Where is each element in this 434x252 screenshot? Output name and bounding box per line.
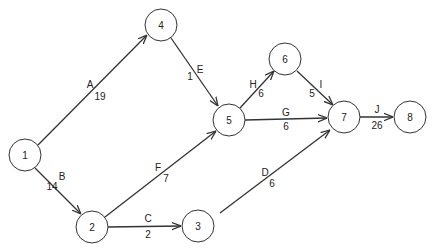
edge-D: D 6 [220, 130, 330, 213]
node-2-label: 2 [89, 222, 95, 233]
edge-C: C 2 [108, 213, 181, 240]
edge-B: B 14 [35, 168, 81, 214]
edge-D-activity: D [261, 167, 268, 178]
node-7: 7 [328, 101, 360, 133]
node-5: 5 [213, 104, 245, 136]
network-diagram: A 19 B 14 C 2 D 6 E 1 F 7 G 6 H 6 I 5 [0, 0, 434, 252]
node-6-label: 6 [282, 54, 288, 65]
edge-B-duration: 14 [46, 181, 58, 192]
node-1: 1 [9, 139, 41, 171]
edge-J-duration: 26 [371, 120, 383, 131]
edge-H-duration: 6 [258, 88, 264, 99]
edge-F-duration: 7 [163, 173, 169, 184]
edge-C-duration: 2 [145, 229, 151, 240]
edge-B-activity: B [59, 171, 66, 182]
node-8-label: 8 [407, 112, 413, 123]
edge-G-activity: G [282, 107, 290, 118]
edge-F-activity: F [155, 162, 161, 173]
edge-G: G 6 [245, 107, 327, 132]
node-1-label: 1 [22, 150, 28, 161]
node-4: 4 [145, 9, 177, 41]
edge-C-activity: C [144, 213, 151, 224]
edge-I: I 5 [297, 71, 333, 105]
edge-H: H 6 [240, 71, 274, 108]
node-8: 8 [394, 101, 426, 133]
edge-G-duration: 6 [283, 121, 289, 132]
node-3-label: 3 [195, 221, 201, 232]
edge-A-duration: 19 [94, 91, 106, 102]
edge-D-duration: 6 [269, 178, 275, 189]
node-5-label: 5 [226, 115, 232, 126]
node-7-label: 7 [341, 112, 347, 123]
edge-E-activity: E [197, 64, 204, 75]
edge-J-activity: J [375, 104, 380, 115]
node-6: 6 [269, 43, 301, 75]
edge-I-activity: I [320, 79, 323, 90]
node-4-label: 4 [158, 20, 164, 31]
node-3: 3 [182, 210, 214, 242]
edge-J: J 26 [360, 104, 393, 131]
edge-A: A 19 [38, 35, 147, 145]
edge-F: F 7 [105, 131, 216, 217]
edge-A-activity: A [87, 79, 94, 90]
edge-I-duration: 5 [309, 88, 315, 99]
edge-E-duration: 1 [187, 71, 193, 82]
edge-E: E 1 [171, 38, 218, 106]
node-2: 2 [76, 211, 108, 243]
edge-H-activity: H [249, 79, 256, 90]
